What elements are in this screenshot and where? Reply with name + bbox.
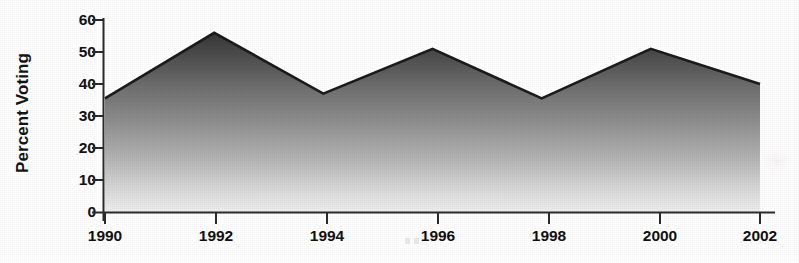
x-tick-label-1994: 1994: [310, 228, 344, 244]
scan-artifact-right: [762, 150, 792, 172]
plot-area: [0, 0, 799, 263]
chart-container: Percent Voting 60 50 40 30 20 10 0: [0, 0, 799, 263]
x-tick-label-2002: 2002: [743, 228, 777, 244]
y-axis-tick-marks: [92, 20, 104, 180]
x-tick-label-1990: 1990: [88, 228, 122, 244]
area-series-percent-voting: [105, 33, 760, 212]
x-tick-label-1992: 1992: [199, 228, 233, 244]
x-tick-label-2000: 2000: [643, 228, 677, 244]
x-axis-tick-marks: [105, 212, 760, 224]
x-tick-label-1998: 1998: [532, 228, 566, 244]
scan-artifact-bottom: [405, 238, 427, 244]
